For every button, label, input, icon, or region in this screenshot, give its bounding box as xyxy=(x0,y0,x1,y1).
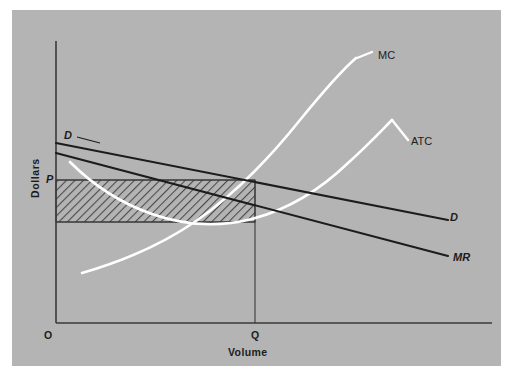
origin-label: O xyxy=(44,330,53,341)
marginal-cost-curve xyxy=(82,58,356,273)
marginal-cost-label: MC xyxy=(378,50,395,61)
quantity-tick-label: Q xyxy=(251,330,260,341)
atc-leader xyxy=(392,120,408,140)
x-axis-label: Volume xyxy=(228,347,268,358)
mc-leader xyxy=(357,52,372,58)
demand-left-label: D xyxy=(64,130,72,141)
figure-root: D D MR MC ATC P O Q Volume Dollars xyxy=(0,0,512,383)
y-axis-label: Dollars xyxy=(30,158,41,198)
marginal-revenue-label: MR xyxy=(453,252,470,263)
average-total-cost-label: ATC xyxy=(411,136,432,147)
price-tick-label: P xyxy=(46,174,53,185)
diagram-canvas xyxy=(0,0,512,383)
demand-right-label: D xyxy=(450,212,458,223)
demand-left-leader xyxy=(77,137,100,143)
